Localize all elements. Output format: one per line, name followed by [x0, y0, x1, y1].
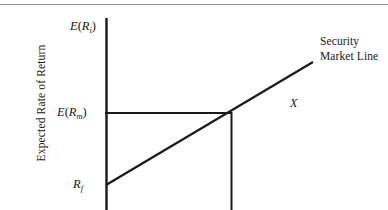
point-x-label: X [290, 96, 297, 111]
y-tick-label-risk-free-rate: Rf [73, 177, 83, 192]
tick-eri-close-paren: ) [92, 19, 96, 33]
sml-caption-line-2: Market Line [320, 49, 378, 64]
security-market-line-caption: Security Market Line [320, 34, 378, 64]
tick-erm-e: E [57, 105, 65, 119]
y-axis-title: Expected Rate of Return [35, 13, 47, 193]
tick-rf-subscript: f [81, 183, 83, 193]
tick-eri-e: E [70, 19, 78, 33]
tick-rf-r: R [73, 177, 81, 191]
sml-caption-line-1: Security [320, 34, 378, 49]
tick-erm-close-paren: ) [83, 105, 87, 119]
security-market-line [106, 62, 313, 185]
figure-canvas: Expected Rate of Return E(Ri) E(Rm) Rf X… [0, 0, 388, 210]
tick-eri-subscript: i [89, 25, 91, 35]
y-tick-label-expected-return-market: E(Rm) [57, 105, 87, 120]
y-tick-label-expected-return-i: E(Ri) [70, 19, 96, 34]
tick-erm-subscript: m [76, 111, 82, 121]
